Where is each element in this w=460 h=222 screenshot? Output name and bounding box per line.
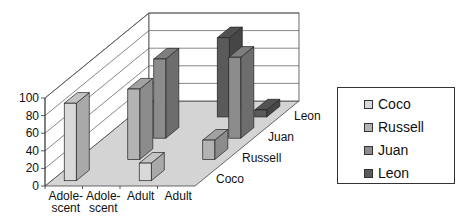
legend-label: Russell — [378, 119, 424, 135]
legend-item-leon: Leon — [364, 164, 409, 182]
x-category-label: scent — [89, 201, 118, 215]
depth-label: Leon — [294, 109, 321, 123]
legend-swatch-leon — [364, 169, 373, 178]
legend-item-coco: Coco — [364, 95, 411, 113]
bar-juan-3 — [229, 47, 254, 139]
depth-label: Coco — [216, 172, 244, 186]
legend-label: Coco — [378, 96, 411, 112]
depth-label: Russell — [242, 151, 281, 165]
y-tick-label: 40 — [26, 144, 40, 158]
bar-coco-0 — [64, 93, 89, 181]
x-category-label: Adult — [165, 189, 193, 203]
y-tick-label: 80 — [26, 109, 40, 123]
x-axis-categories: Adole-scentAdole-scentAdultAdult — [45, 186, 193, 215]
y-tick-label: 60 — [26, 126, 40, 140]
legend-label: Juan — [378, 142, 408, 158]
y-tick-label: 20 — [26, 161, 40, 175]
y-tick-label: 100 — [19, 91, 39, 105]
legend-label: Leon — [378, 165, 409, 181]
legend-swatch-russell — [364, 123, 373, 132]
y-tick-label: 0 — [32, 179, 39, 193]
legend-item-juan: Juan — [364, 141, 408, 159]
bar-juan-1 — [154, 48, 179, 138]
legend-swatch-juan — [364, 146, 373, 155]
depth-label: Juan — [268, 130, 294, 144]
chart-legend: Coco Russell Juan Leon — [337, 87, 455, 184]
y-axis-ticks: 020406080100 — [19, 91, 45, 193]
legend-item-russell: Russell — [364, 118, 424, 136]
x-category-label: Adult — [127, 189, 155, 203]
x-category-label: scent — [51, 201, 80, 215]
bar-russell-1 — [128, 78, 153, 159]
legend-swatch-coco — [364, 100, 373, 109]
